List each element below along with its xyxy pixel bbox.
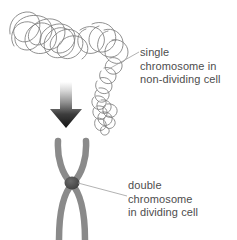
label-single-line-2: chromosome in [140,60,221,74]
label-double-line-1: double [128,179,198,193]
double-chromosome-x-icon [58,141,86,240]
leader-line-single-icon [107,52,139,70]
centromere-icon [65,177,80,190]
leader-line-double-icon [78,183,127,196]
chromosome-diagram-figure: single chromosome in non-dividing cell d… [0,0,237,240]
down-arrow-icon [50,82,82,128]
label-single-line-3: non-dividing cell [140,73,221,87]
label-single-chromosome: single chromosome in non-dividing cell [140,46,221,87]
label-single-line-1: single [140,46,221,60]
label-double-line-3: in dividing cell [128,206,198,220]
diagram-canvas [0,0,237,240]
label-double-chromosome: double chromosome in dividing cell [128,179,198,220]
label-double-line-2: chromosome [128,193,198,207]
